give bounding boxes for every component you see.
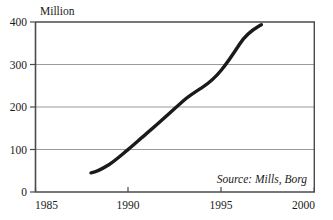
x-tick-label-1985: 1985 [35, 199, 58, 211]
y-axis-unit-caption: Million [40, 5, 75, 17]
x-axis-tick-labels: 1985 1990 1995 2000 [35, 199, 315, 211]
y-tick-label-0: 0 [21, 186, 27, 198]
x-tick-label-1990: 1990 [117, 199, 140, 211]
x-tick-label-2000: 2000 [292, 199, 315, 211]
source-attribution: Source: Mills, Borg [217, 173, 307, 186]
y-tick-label-400: 400 [10, 16, 28, 28]
line-chart: 400 300 200 100 0 1985 1990 1995 2000 Mi… [0, 0, 333, 220]
y-axis-ticks [30, 22, 35, 192]
x-tick-label-1995: 1995 [210, 199, 233, 211]
y-tick-label-200: 200 [10, 101, 28, 113]
y-tick-label-300: 300 [10, 59, 28, 71]
y-axis-tick-labels: 400 300 200 100 0 [10, 16, 28, 198]
chart-canvas: 400 300 200 100 0 1985 1990 1995 2000 Mi… [0, 0, 333, 220]
y-tick-label-100: 100 [10, 144, 28, 156]
